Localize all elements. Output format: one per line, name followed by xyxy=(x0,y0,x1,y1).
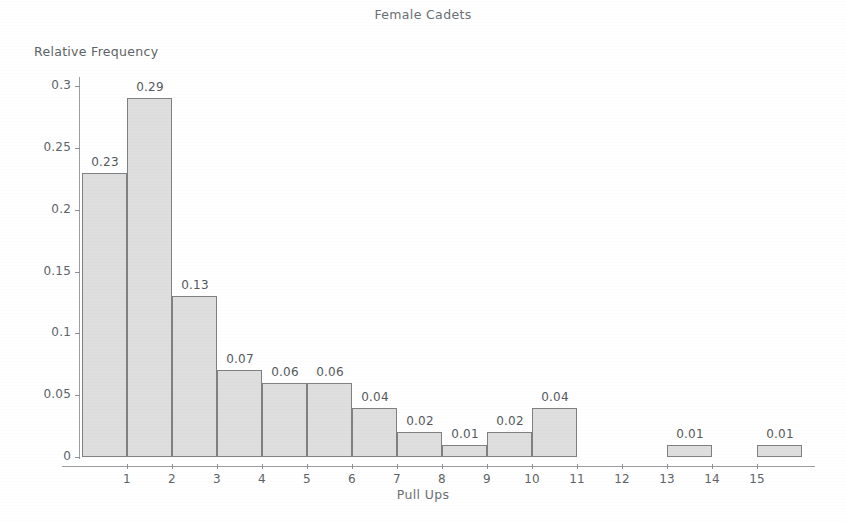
x-tick-mark xyxy=(757,464,758,469)
histogram-bar xyxy=(262,383,307,457)
x-tick-mark xyxy=(397,464,398,469)
y-axis-label: Relative Frequency xyxy=(34,44,158,59)
x-tick-label: 12 xyxy=(602,472,642,486)
x-tick-label: 7 xyxy=(377,472,417,486)
chart-canvas: Female Cadets Relative Frequency 00.050.… xyxy=(0,0,846,521)
histogram-bar xyxy=(442,445,487,457)
x-tick-mark xyxy=(487,464,488,469)
x-tick-mark xyxy=(127,464,128,469)
histogram-bar xyxy=(217,370,262,457)
x-tick-label: 5 xyxy=(287,472,327,486)
histogram-bar xyxy=(487,432,532,457)
x-tick-mark xyxy=(262,464,263,469)
x-tick-mark xyxy=(217,464,218,469)
y-tick-label: 0 xyxy=(24,449,71,463)
x-tick-label: 15 xyxy=(737,472,777,486)
bar-value-label: 0.06 xyxy=(300,365,360,379)
bar-value-label: 0.29 xyxy=(120,80,180,94)
bar-value-label: 0.01 xyxy=(750,427,810,441)
y-tick-mark xyxy=(75,86,80,87)
x-tick-label: 1 xyxy=(107,472,147,486)
y-tick-mark xyxy=(75,395,80,396)
x-tick-label: 14 xyxy=(692,472,732,486)
histogram-bar xyxy=(667,445,712,457)
bar-value-label: 0.01 xyxy=(660,427,720,441)
chart-title: Female Cadets xyxy=(0,7,846,22)
x-tick-mark xyxy=(667,464,668,469)
bar-value-label: 0.02 xyxy=(390,414,450,428)
bar-value-label: 0.02 xyxy=(480,414,540,428)
x-tick-label: 10 xyxy=(512,472,552,486)
y-tick-label: 0.2 xyxy=(24,202,71,216)
x-tick-label: 8 xyxy=(422,472,462,486)
bar-value-label: 0.07 xyxy=(210,352,270,366)
x-tick-label: 11 xyxy=(557,472,597,486)
x-tick-label: 6 xyxy=(332,472,372,486)
y-tick-label: 0.1 xyxy=(24,325,71,339)
y-tick-mark xyxy=(75,210,80,211)
x-tick-mark xyxy=(307,464,308,469)
x-tick-mark xyxy=(442,464,443,469)
y-axis-line xyxy=(79,77,80,459)
y-tick-label: 0.3 xyxy=(24,78,71,92)
bar-value-label: 0.04 xyxy=(525,390,585,404)
histogram-bar xyxy=(532,408,577,457)
x-tick-mark xyxy=(622,464,623,469)
y-tick-label: 0.05 xyxy=(24,387,71,401)
x-tick-label: 3 xyxy=(197,472,237,486)
bar-value-label: 0.13 xyxy=(165,278,225,292)
bar-value-label: 0.04 xyxy=(345,390,405,404)
y-tick-mark xyxy=(75,333,80,334)
x-tick-mark xyxy=(712,464,713,469)
y-tick-mark xyxy=(75,148,80,149)
histogram-bar xyxy=(82,173,127,457)
x-axis-label: Pull Ups xyxy=(0,487,846,502)
x-tick-mark xyxy=(532,464,533,469)
x-tick-label: 2 xyxy=(152,472,192,486)
x-tick-mark xyxy=(352,464,353,469)
bar-value-label: 0.23 xyxy=(75,155,135,169)
x-tick-mark xyxy=(172,464,173,469)
x-tick-label: 4 xyxy=(242,472,282,486)
bar-value-label: 0.01 xyxy=(435,427,495,441)
x-tick-mark xyxy=(577,464,578,469)
histogram-bar xyxy=(757,445,802,457)
y-tick-label: 0.25 xyxy=(24,140,71,154)
y-tick-mark xyxy=(75,457,80,458)
y-tick-label: 0.15 xyxy=(24,264,71,278)
x-tick-label: 13 xyxy=(647,472,687,486)
x-tick-label: 9 xyxy=(467,472,507,486)
histogram-bar xyxy=(172,296,217,457)
x-axis-line xyxy=(62,466,815,467)
y-tick-mark xyxy=(75,272,80,273)
